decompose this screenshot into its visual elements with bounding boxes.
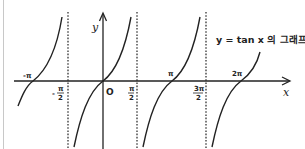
tan-branch-pi: [143, 17, 200, 147]
y-axis-label: y: [91, 21, 99, 34]
tick-label-neg-pi-over-2-den: 2: [58, 94, 63, 102]
tan-branch-2pi: [212, 52, 260, 147]
tick-label-neg-pi-over-2-num: π: [58, 85, 64, 93]
tick-label-neg-pi: -π: [23, 72, 32, 80]
tick-label-3pi-over-2-num: 3π: [194, 85, 205, 93]
tick-label-3pi-over-2-den: 2: [196, 94, 201, 102]
graph-caption: y = tan x 의 그래프: [216, 34, 305, 45]
tan-graph-figure: y x O -π - π 2 π 2 π 3π 2 2π y = tan x 의…: [0, 0, 305, 149]
tick-label-pi: π: [168, 70, 174, 78]
tick-label-2pi: 2π: [232, 70, 243, 78]
tick-label-pi-over-2-num: π: [129, 85, 135, 93]
x-axis-label: x: [283, 86, 290, 99]
tick-label-neg-pi-over-2-sign: -: [52, 90, 55, 98]
tan-branch-neg-pi: [18, 17, 62, 106]
tick-label-pi-over-2-den: 2: [129, 94, 134, 102]
origin-label: O: [106, 87, 114, 97]
tan-graph-svg: y x O -π - π 2 π 2 π 3π 2 2π y = tan x 의…: [0, 0, 305, 149]
